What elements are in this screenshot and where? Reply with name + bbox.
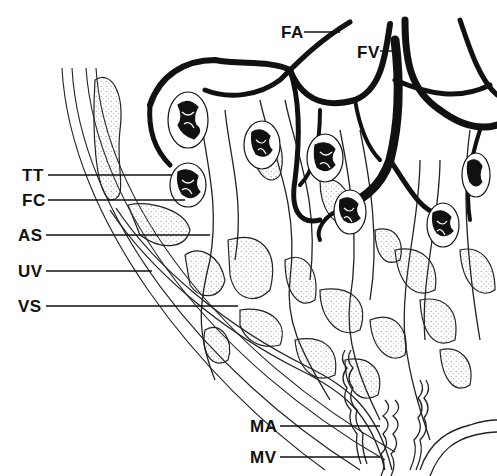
label-fv: FV xyxy=(357,44,380,61)
label-tt: TT xyxy=(22,167,44,184)
placenta-diagram xyxy=(0,0,497,476)
label-fa: FA xyxy=(281,24,304,41)
label-fc: FC xyxy=(22,192,46,209)
label-vs: VS xyxy=(18,298,42,315)
label-ma: MA xyxy=(250,418,277,435)
label-uv: UV xyxy=(18,263,43,280)
label-mv: MV xyxy=(250,449,277,466)
label-as: AS xyxy=(18,227,43,244)
